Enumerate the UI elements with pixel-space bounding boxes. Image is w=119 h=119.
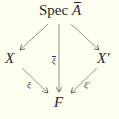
node-f: F	[54, 95, 63, 110]
label-xi-prime: ξ′	[84, 81, 90, 90]
a-bar-symbol: A	[72, 3, 81, 18]
node-spec-a-bar: Spec A	[39, 3, 81, 18]
arrow-top-to-left	[20, 24, 48, 50]
label-xi: ξ	[27, 81, 31, 90]
label-xi-bar: ξ	[52, 57, 56, 66]
node-x-prime: X′	[97, 51, 109, 66]
spec-prefix: Spec	[39, 2, 68, 18]
arrow-top-to-right	[71, 24, 99, 50]
node-x: X	[5, 51, 14, 66]
arrow-left-to-bottom	[22, 68, 48, 93]
xi-bar-symbol: ξ	[52, 57, 56, 66]
